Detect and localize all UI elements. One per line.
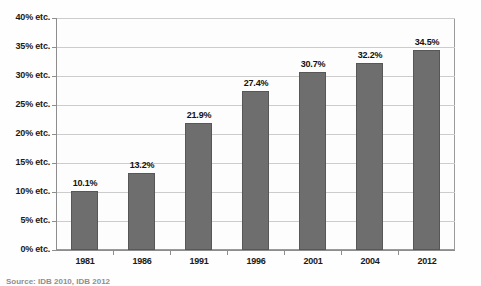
y-axis-tick-label-text: 20% etc.	[2, 128, 50, 138]
bar	[356, 63, 383, 250]
y-axis-tick-label-text: 40% etc.	[2, 12, 50, 22]
bar	[299, 72, 326, 250]
x-axis-tick-label: 2001	[283, 256, 343, 266]
bar	[128, 173, 155, 250]
bar-value-label: 10.1%	[55, 178, 115, 188]
x-axis-tick-label: 1996	[226, 256, 286, 266]
y-axis-tick-label: 35% etc.	[0, 41, 50, 52]
y-axis-tick-label-text: 10% etc.	[2, 186, 50, 196]
x-axis-tick	[227, 251, 228, 255]
gridline	[56, 18, 455, 19]
y-axis-tick-label: 0% etc.	[0, 244, 50, 255]
x-axis-tick	[284, 251, 285, 255]
y-axis-tick-label-text: 5% etc.	[2, 215, 50, 225]
y-axis-tick	[52, 163, 56, 164]
y-axis-tick-label: 10% etc.	[0, 186, 50, 197]
x-axis-tick-label: 1991	[169, 256, 229, 266]
y-axis-tick	[52, 47, 56, 48]
x-axis-tick-label: 1986	[112, 256, 172, 266]
x-axis-tick	[170, 251, 171, 255]
x-axis-tick	[113, 251, 114, 255]
x-axis-tick-label: 1981	[55, 256, 115, 266]
y-axis-tick	[52, 192, 56, 193]
x-axis-line	[56, 250, 455, 251]
y-axis-tick-label: 20% etc.	[0, 128, 50, 139]
y-axis-tick-label: 30% etc.	[0, 70, 50, 81]
x-axis-tick	[398, 251, 399, 255]
gridline	[56, 76, 455, 77]
y-axis-tick-label: 25% etc.	[0, 99, 50, 110]
bar-chart: 0% etc.5% etc.10% etc.15% etc.20% etc.25…	[0, 0, 481, 286]
y-axis-tick-label-text: 0% etc.	[2, 244, 50, 254]
x-axis-tick-label: 2012	[397, 256, 457, 266]
bar	[413, 50, 440, 250]
y-axis-tick	[52, 134, 56, 135]
y-axis-tick	[52, 221, 56, 222]
bar-value-label: 27.4%	[226, 78, 286, 88]
gridline	[56, 47, 455, 48]
x-axis-tick	[341, 251, 342, 255]
bar	[242, 91, 269, 250]
y-axis-tick-label-text: 15% etc.	[2, 157, 50, 167]
bar-value-label: 32.2%	[340, 50, 400, 60]
bar	[185, 123, 212, 250]
y-axis-tick-label: 15% etc.	[0, 157, 50, 168]
bar-value-label: 34.5%	[397, 37, 457, 47]
y-axis-tick-label: 40% etc.	[0, 12, 50, 23]
y-axis-tick	[52, 18, 56, 19]
y-axis-tick-label: 5% etc.	[0, 215, 50, 226]
y-axis-tick-label-text: 30% etc.	[2, 70, 50, 80]
source-note: Source: IDB 2010, IDB 2012	[6, 277, 110, 286]
bar	[71, 191, 98, 250]
bar-value-label: 13.2%	[112, 160, 172, 170]
bar-value-label: 21.9%	[169, 110, 229, 120]
y-axis-line	[56, 18, 57, 251]
x-axis-tick-label: 2004	[340, 256, 400, 266]
y-axis-tick-label-text: 35% etc.	[2, 41, 50, 51]
bar-value-label: 30.7%	[283, 59, 343, 69]
y-axis-tick-label-text: 25% etc.	[2, 99, 50, 109]
y-axis-tick	[52, 76, 56, 77]
y-axis-tick	[52, 105, 56, 106]
